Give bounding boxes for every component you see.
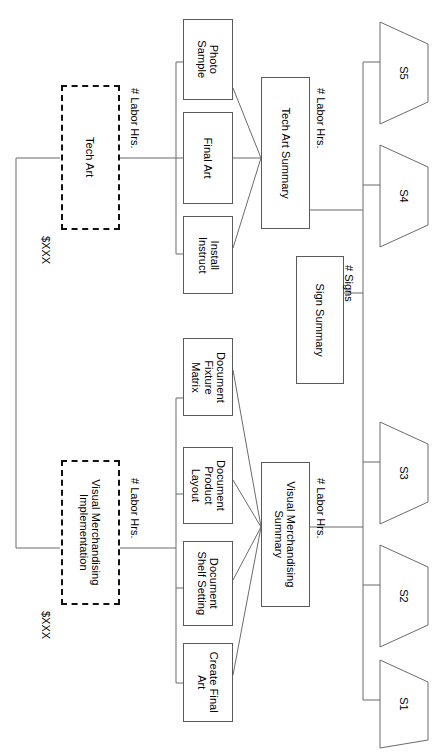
- store-label-s5: S5: [398, 66, 410, 79]
- task-box-document-product-layout[interactable]: Document Product Layout: [183, 447, 233, 524]
- vm-converge-shelf: [233, 527, 261, 580]
- diagram-canvas: Tech Art $XXX # Labor Hrs. Photo Sample …: [0, 0, 434, 754]
- task-box-document-fixture-matrix[interactable]: Document Fixture Matrix: [183, 338, 233, 416]
- task-label-document-fixture-matrix: Document Fixture Matrix: [190, 352, 227, 403]
- store-label-s2: S2: [398, 589, 410, 602]
- tech-art-converge-install: [233, 158, 261, 248]
- task-box-final-art[interactable]: Final Art: [183, 112, 233, 204]
- phase-label-visual-merch: Visual Merchandising Implementation: [78, 479, 103, 585]
- tech-art-converge-photo: [233, 88, 261, 158]
- task-label-document-product-layout: Document Product Layout: [190, 460, 227, 511]
- driver-label-sign: # Signs: [343, 265, 355, 302]
- summary-label-sign: Sign Summary: [314, 283, 326, 356]
- driver-label-tech-art-right: # Labor Hrs.: [315, 88, 327, 149]
- task-box-install-instruct[interactable]: Install Instruct: [183, 216, 233, 294]
- task-label-photo-sample: Photo Sample: [196, 41, 221, 79]
- cost-label-visual-merch: $XXX: [40, 611, 52, 639]
- store-label-s3: S3: [398, 466, 410, 479]
- driver-label-tech-art-left: # Labor Hrs.: [129, 88, 141, 149]
- driver-label-visual-merch-left: # Labor Hrs.: [129, 478, 141, 539]
- store-label-s4: S4: [398, 189, 410, 202]
- vm-converge-finalart: [233, 527, 261, 675]
- summary-box-tech-art[interactable]: Tech Art Summary: [261, 77, 310, 229]
- summary-box-sign[interactable]: Sign Summary: [296, 256, 344, 384]
- summary-label-tech-art: Tech Art Summary: [279, 107, 291, 198]
- store-node-s5[interactable]: S5: [380, 22, 428, 124]
- vm-converge-fixture: [233, 370, 261, 527]
- store-node-s3[interactable]: S3: [380, 422, 428, 524]
- task-box-document-shelf-setting[interactable]: Document Shelf Setting: [183, 541, 233, 626]
- phase-box-tech-art[interactable]: Tech Art: [61, 85, 120, 230]
- task-label-create-final-art: Create Final Art: [196, 652, 221, 713]
- store-label-s1: S1: [398, 697, 410, 710]
- phase-box-visual-merch[interactable]: Visual Merchandising Implementation: [61, 460, 120, 605]
- cost-label-tech-art: $XXX: [40, 236, 52, 264]
- phase-label-tech-art: Tech Art: [84, 137, 96, 178]
- vm-converge-product: [233, 480, 261, 527]
- store-node-s4[interactable]: S4: [380, 145, 428, 247]
- task-label-install-instruct: Install Instruct: [196, 237, 221, 274]
- task-box-create-final-art[interactable]: Create Final Art: [183, 643, 233, 722]
- driver-label-visual-merch-right: # Labor Hrs.: [315, 478, 327, 539]
- root-bracket: [16, 158, 60, 548]
- task-label-document-shelf-setting: Document Shelf Setting: [196, 552, 221, 616]
- store-node-s1[interactable]: S1: [380, 660, 428, 748]
- task-label-final-art: Final Art: [202, 137, 214, 178]
- summary-label-visual-merch: Visual Merchandising Summary: [273, 481, 298, 587]
- summary-box-visual-merch[interactable]: Visual Merchandising Summary: [261, 462, 310, 607]
- store-node-s2[interactable]: S2: [380, 545, 428, 647]
- task-box-photo-sample[interactable]: Photo Sample: [183, 19, 233, 100]
